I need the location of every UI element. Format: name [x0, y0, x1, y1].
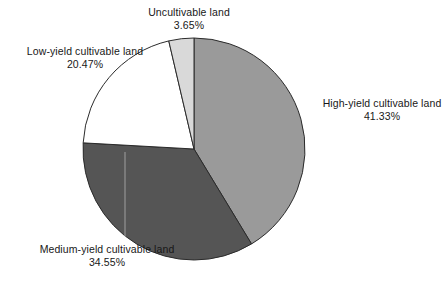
slice-label-medium-yield-cultivable-land: Medium-yield cultivable land 34.55% — [14, 243, 200, 269]
slice-label-value: 3.65% — [104, 19, 274, 32]
slice-label-low-yield-cultivable-land: Low-yield cultivable land 20.47% — [2, 45, 168, 71]
slice-label-name: Low-yield cultivable land — [2, 45, 168, 58]
slice-label-uncultivable-land: Uncultivable land 3.65% — [104, 6, 274, 32]
slice-label-name: High-yield cultivable land — [320, 97, 442, 110]
slice-label-value: 34.55% — [14, 256, 200, 269]
slice-label-name: Medium-yield cultivable land — [14, 243, 200, 256]
pie-slices-group — [83, 38, 305, 260]
slice-label-name: Uncultivable land — [104, 6, 274, 19]
slice-label-high-yield-cultivable-land: High-yield cultivable land 41.33% — [320, 97, 442, 123]
pie-chart: Uncultivable land 3.65% Low-yield cultiv… — [0, 0, 442, 284]
slice-label-value: 41.33% — [320, 110, 442, 123]
pie-chart-canvas — [0, 0, 442, 284]
slice-label-value: 20.47% — [2, 58, 168, 71]
